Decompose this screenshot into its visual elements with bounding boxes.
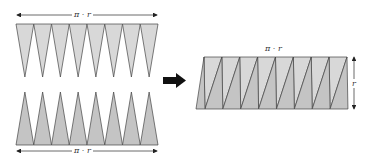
- sector: [196, 57, 205, 109]
- top-width-label: π · r: [72, 10, 93, 19]
- result-width-label: π · r: [263, 44, 284, 53]
- sector: [34, 24, 52, 77]
- diagram-graphic: [0, 0, 366, 160]
- sector: [16, 92, 34, 145]
- sector: [52, 92, 70, 145]
- transform-arrow-icon: [163, 73, 186, 88]
- sector: [52, 24, 70, 77]
- sector: [140, 92, 158, 145]
- sector: [69, 92, 87, 145]
- height-label: r: [350, 79, 358, 88]
- lower-sector-row: [16, 92, 158, 145]
- upper-sector-row: [16, 24, 158, 77]
- sector: [105, 92, 123, 145]
- sector: [123, 92, 141, 145]
- sector: [34, 92, 52, 145]
- sector: [140, 24, 158, 77]
- sector: [87, 24, 105, 77]
- sector: [16, 24, 34, 77]
- sector: [105, 24, 123, 77]
- sector: [123, 24, 141, 77]
- sector: [87, 92, 105, 145]
- bottom-width-label: π · r: [72, 146, 93, 155]
- diagram-stage: π · r π · r π · r r: [0, 0, 366, 160]
- sector: [69, 24, 87, 77]
- parallelogram: [196, 57, 348, 109]
